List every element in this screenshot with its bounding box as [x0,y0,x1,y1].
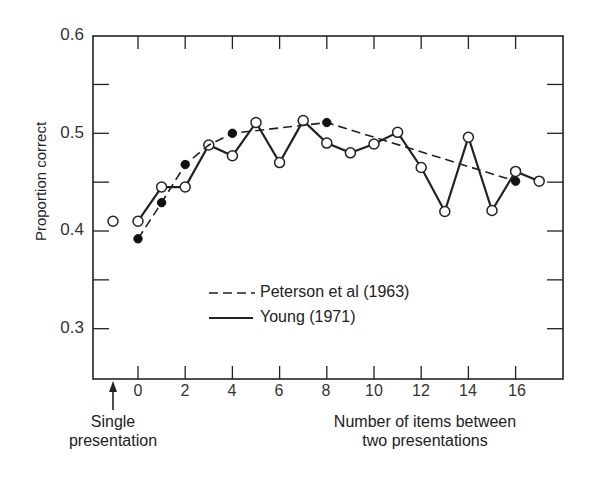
young-marker [534,176,544,186]
young-marker [440,206,450,216]
x-tick-label: 4 [217,382,247,400]
single-presentation-point [108,216,118,226]
young-marker [133,216,143,226]
young-marker [345,148,355,158]
y-axis-label: Proportion correct [32,102,49,262]
peterson-marker [228,129,236,137]
single-presentation-marker [108,216,118,226]
x-tick-label: 2 [170,382,200,400]
x-tick-label: 14 [453,382,483,400]
series-young [133,116,544,227]
peterson-marker [181,160,189,168]
y-tick-label: 0.6 [44,25,84,45]
single-presentation-label: Single presentation [63,412,163,450]
young-marker [180,182,190,192]
young-marker [416,162,426,172]
y-tick-label: 0.5 [44,123,84,143]
peterson-marker [511,177,519,185]
single-label-line1: Single [63,412,163,431]
single-presentation-arrow-icon [109,381,117,410]
series-peterson [134,118,520,243]
x-tick-label: 16 [502,382,532,400]
young-marker [322,138,332,148]
young-marker [275,158,285,168]
x-tick-label: 12 [406,382,436,400]
young-marker [487,205,497,215]
legend-swatches [209,293,255,318]
x-tick-label: 0 [123,382,153,400]
x-tick-label: 8 [311,382,341,400]
single-label-line2: presentation [63,431,163,450]
young-marker [393,127,403,137]
line-chart [0,0,595,480]
young-marker [511,166,521,176]
y-tick-label: 0.3 [44,318,84,338]
peterson-marker [323,118,331,126]
legend-label-peterson: Peterson et al (1963) [260,283,409,301]
y-tick-label: 0.4 [44,220,84,240]
x-axis-label-line1: Number of items between [300,412,550,431]
x-tick-label: 6 [264,382,294,400]
x-axis-label-line2: two presentations [300,431,550,450]
young-marker [227,151,237,161]
peterson-marker [134,235,142,243]
young-marker [157,182,167,192]
x-axis-label: Number of items between two presentation… [300,412,550,450]
young-marker [463,132,473,142]
peterson-marker [157,198,165,206]
x-tick-label: 10 [359,382,389,400]
young-marker [251,118,261,128]
legend-label-young: Young (1971) [260,308,356,326]
young-line [138,121,539,222]
young-marker [298,116,308,126]
young-marker [369,139,379,149]
